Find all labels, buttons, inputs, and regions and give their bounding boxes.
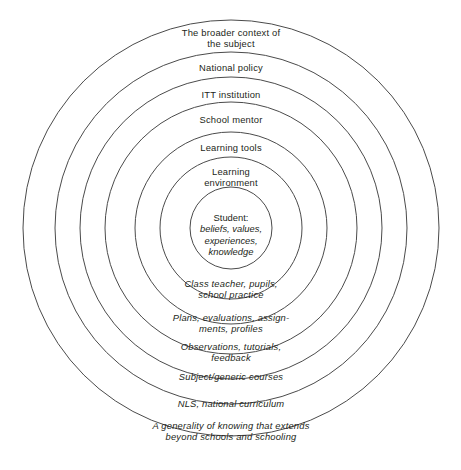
- core-label-student: Student: beliefs, values, experiences, k…: [176, 212, 286, 258]
- core-label-student-title: Student:: [176, 212, 286, 223]
- core-label-student-detail: beliefs, values, experiences, knowledge: [176, 223, 286, 257]
- concentric-circles-diagram: The broader context of the subject Natio…: [0, 0, 461, 470]
